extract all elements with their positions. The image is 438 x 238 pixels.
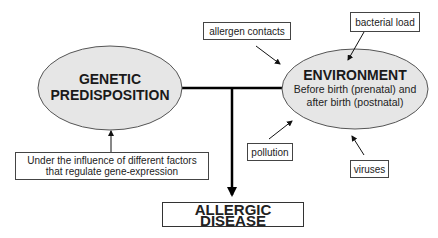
viruses-text: viruses [354, 164, 386, 175]
allergen-arrow [256, 46, 280, 64]
pollution-arrow [269, 121, 292, 139]
viruses-box: viruses [350, 160, 389, 178]
viruses-arrow [352, 136, 364, 155]
allergic-disease-text: ALLERGIC DISEASE [163, 204, 303, 226]
allergen-contacts-box: allergen contacts [203, 22, 291, 40]
environment-title: ENVIRONMENT [282, 67, 428, 83]
environment-subtitle-line2: after birth (postnatal) [282, 96, 428, 109]
gene-expression-box: Under the influence of different factors… [15, 152, 209, 180]
gene-expression-line1: Under the influence of different factors [27, 155, 196, 166]
genetic-label: GENETIC PREDISPOSITION [38, 71, 182, 103]
genetic-title-line2: PREDISPOSITION [38, 87, 182, 103]
pollution-box: pollution [247, 143, 293, 161]
bacterial-load-text: bacterial load [355, 17, 414, 28]
genetic-title-line1: GENETIC [38, 71, 182, 87]
pollution-text: pollution [251, 147, 288, 158]
bacterial-load-box: bacterial load [350, 12, 420, 32]
gene-expression-line2: that regulate gene-expression [46, 166, 178, 177]
allergic-disease-box: ALLERGIC DISEASE [162, 202, 304, 227]
environment-subtitle-line1: Before birth (prenatal) and [282, 83, 428, 96]
environment-label: ENVIRONMENT Before birth (prenatal) and … [282, 67, 428, 109]
allergen-contacts-text: allergen contacts [209, 26, 285, 37]
